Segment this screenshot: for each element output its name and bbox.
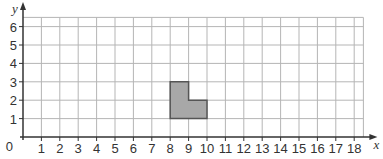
y-tick-label: 6 (10, 20, 17, 35)
x-tick-label: 16 (310, 141, 324, 156)
x-tick-label: 5 (111, 141, 118, 156)
x-tick-label: 18 (347, 141, 361, 156)
x-tick-label: 1 (38, 141, 45, 156)
y-tick-label: 3 (10, 75, 17, 90)
origin-label: 0 (6, 139, 13, 154)
y-tick-label: 4 (10, 56, 17, 71)
y-tick-label: 1 (10, 112, 17, 127)
x-tick-label: 7 (148, 141, 155, 156)
x-axis-label: x (372, 137, 379, 152)
x-tick-label: 14 (273, 141, 287, 156)
x-tick-label: 11 (219, 141, 233, 156)
coordinate-grid: 1234567891011121314151617181234560xy (0, 0, 383, 159)
l-shape (170, 82, 207, 119)
y-tick-label: 2 (10, 93, 17, 108)
x-tick-label: 2 (56, 141, 63, 156)
x-tick-label: 9 (185, 141, 192, 156)
x-tick-label: 13 (255, 141, 269, 156)
y-axis-label: y (10, 1, 18, 16)
y-tick-label: 5 (10, 38, 17, 53)
x-tick-label: 8 (167, 141, 174, 156)
x-tick-label: 10 (200, 141, 214, 156)
x-tick-label: 15 (292, 141, 306, 156)
x-tick-label: 6 (130, 141, 137, 156)
x-tick-label: 3 (75, 141, 82, 156)
x-tick-label: 17 (329, 141, 343, 156)
x-tick-label: 12 (237, 141, 251, 156)
y-axis-arrow-icon (20, 2, 26, 10)
x-tick-label: 4 (93, 141, 100, 156)
